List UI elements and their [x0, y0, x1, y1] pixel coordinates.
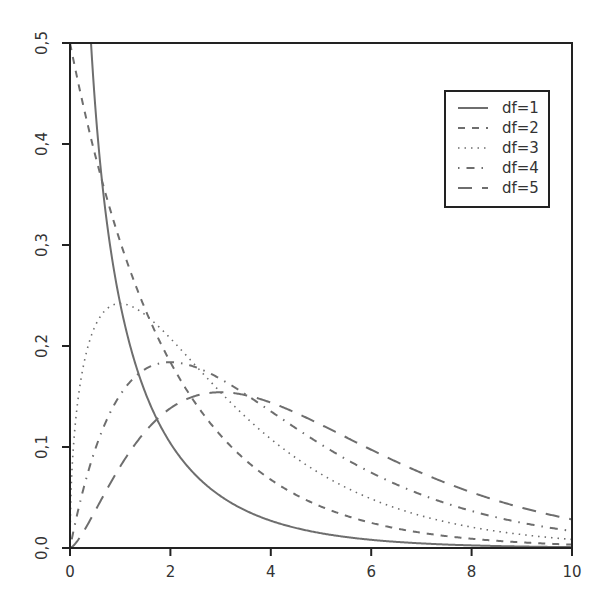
x-tick-label: 10	[562, 563, 581, 581]
y-tick-label: 0,5	[33, 31, 51, 55]
y-tick-label: 0,3	[33, 233, 51, 257]
curve-df-5	[70, 392, 572, 548]
curves-layer	[70, 0, 572, 548]
y-tick-label: 0,2	[33, 334, 51, 358]
y-axis: 0,00,10,20,30,40,5	[33, 31, 70, 560]
legend-label: df=4	[502, 159, 539, 177]
x-tick-label: 0	[65, 563, 75, 581]
legend-label: df=1	[502, 99, 539, 117]
legend-label: df=3	[502, 139, 539, 157]
y-tick-label: 0,4	[33, 132, 51, 156]
legend-label: df=5	[502, 179, 539, 197]
curve-df-3	[70, 304, 572, 540]
x-tick-label: 2	[166, 563, 176, 581]
x-tick-label: 8	[467, 563, 477, 581]
curve-df-1	[71, 0, 572, 547]
x-tick-label: 4	[266, 563, 276, 581]
x-tick-label: 6	[366, 563, 376, 581]
y-tick-label: 0,1	[33, 435, 51, 459]
legend: df=1df=2df=3df=4df=5	[445, 91, 549, 207]
x-axis: 0246810	[65, 548, 581, 581]
chart: 0246810 0,00,10,20,30,40,5 df=1df=2df=3d…	[0, 0, 603, 602]
y-tick-label: 0,0	[33, 536, 51, 560]
legend-label: df=2	[502, 119, 539, 137]
